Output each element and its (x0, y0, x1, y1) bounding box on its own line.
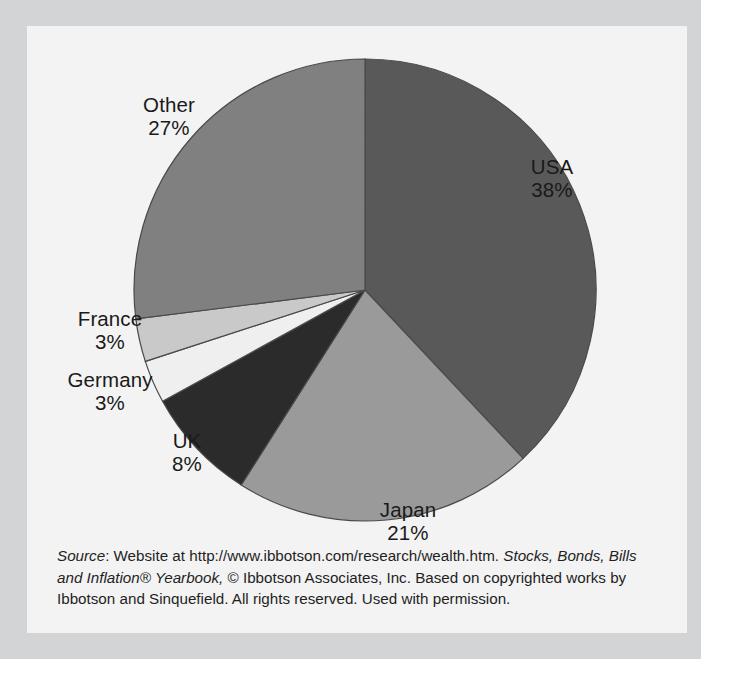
pie-label-japan-name: Japan (343, 499, 473, 522)
figure-outer-frame: Other 27% USA 38% France 3% Germany 3% U… (0, 0, 701, 659)
source-note: Source: Website at http://www.ibbotson.c… (57, 545, 661, 610)
pie-label-germany-value: 3% (35, 392, 185, 415)
pie-label-uk-value: 8% (137, 453, 237, 476)
pie-label-usa-name: USA (497, 156, 607, 179)
pie-label-japan: Japan 21% (343, 499, 473, 545)
pie-label-france-name: France (45, 308, 175, 331)
pie-label-usa: USA 38% (497, 156, 607, 202)
pie-label-usa-value: 38% (497, 179, 607, 202)
pie-label-france: France 3% (45, 308, 175, 354)
source-note-part1: : Website at http://www.ibbotson.com/res… (105, 547, 503, 564)
pie-label-japan-value: 21% (343, 522, 473, 545)
pie-label-other: Other 27% (109, 94, 229, 140)
pie-label-uk: UK 8% (137, 430, 237, 476)
pie-label-france-value: 3% (45, 331, 175, 354)
chart-panel: Other 27% USA 38% France 3% Germany 3% U… (27, 26, 687, 633)
pie-label-other-value: 27% (109, 117, 229, 140)
chart-page: Other 27% USA 38% France 3% Germany 3% U… (0, 0, 740, 684)
pie-label-other-name: Other (109, 94, 229, 117)
pie-label-germany-name: Germany (35, 369, 185, 392)
pie-label-uk-name: UK (137, 430, 237, 453)
source-note-source-word: Source (57, 547, 105, 564)
pie-chart: Other 27% USA 38% France 3% Germany 3% U… (27, 26, 687, 633)
pie-label-germany: Germany 3% (35, 369, 185, 415)
